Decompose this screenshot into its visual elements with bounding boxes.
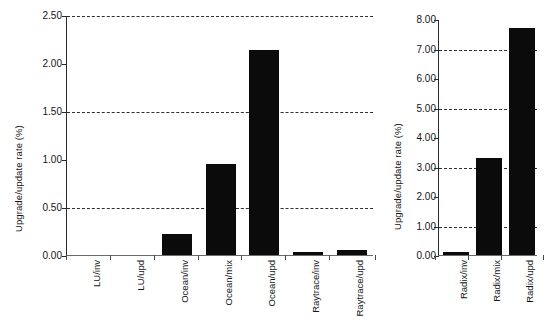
chart-panel-left: Upgrade/update rate (%) 0.000.501.001.50…: [0, 0, 380, 329]
bar: [476, 158, 502, 255]
y-axis-tick-label: 0.50: [43, 203, 62, 213]
x-axis-tick-label: Radix/mix: [492, 260, 502, 302]
x-axis-tick-mark: [329, 255, 330, 260]
x-axis-tick-label: Radix/upd: [525, 260, 535, 303]
x-axis-tick-label: Ocean/inv: [180, 260, 190, 303]
y-axis-title: Upgrade/update rate (%): [13, 125, 24, 232]
x-axis-tick-mark: [285, 255, 286, 260]
y-axis-tick-label: 1.50: [43, 107, 62, 117]
x-axis-tick-label: Ocean/upd: [267, 260, 277, 306]
gridline: [67, 112, 373, 113]
x-axis-tick-label: Ocean/mix: [224, 260, 234, 305]
x-axis-tick-label: Radix/inv: [459, 260, 469, 299]
bar: [249, 50, 279, 255]
bar: [443, 252, 469, 255]
y-axis-tick-mark: [62, 64, 67, 65]
x-axis-tick-mark: [543, 255, 544, 260]
bar: [162, 234, 192, 255]
x-axis-tick-label: Raytrace/inv: [311, 260, 321, 313]
y-axis-title: Upgrade/update rate (%): [392, 123, 403, 230]
x-axis-tick-mark: [110, 255, 111, 260]
plot-area: [438, 20, 537, 256]
y-axis-tick-mark: [434, 20, 439, 21]
x-axis-tick-label: LU/inv: [92, 260, 102, 287]
x-axis-tick-mark: [375, 255, 376, 260]
x-axis-tick-mark: [241, 255, 242, 260]
x-axis-tick-label: Raytrace/upd: [355, 260, 365, 317]
bar: [293, 252, 323, 255]
y-axis-tick-mark: [434, 79, 439, 80]
plot-area: [66, 16, 373, 256]
x-axis-tick-label: LU/upd: [136, 260, 146, 291]
y-axis-tick-mark: [434, 138, 439, 139]
x-axis-tick-mark: [66, 255, 67, 260]
x-axis-tick-mark: [198, 255, 199, 260]
y-axis-tick-label: 0.00: [43, 251, 62, 261]
gridline: [67, 16, 373, 17]
y-axis-tick-mark: [434, 197, 439, 198]
x-axis-tick-mark: [154, 255, 155, 260]
y-axis-tick-mark: [62, 160, 67, 161]
chart-panel-right: Upgrade/update rate (%) 0.001.002.003.00…: [380, 0, 548, 329]
bar: [509, 28, 535, 255]
x-axis-tick-mark: [435, 255, 436, 260]
y-axis-tick-label: 1.00: [43, 155, 62, 165]
bar-chart-figure: Upgrade/update rate (%) 0.000.501.001.50…: [0, 0, 548, 329]
y-axis-tick-label: 2.50: [43, 11, 62, 21]
bar: [206, 164, 236, 255]
bar: [337, 250, 367, 255]
y-axis-tick-label: 2.00: [43, 59, 62, 69]
